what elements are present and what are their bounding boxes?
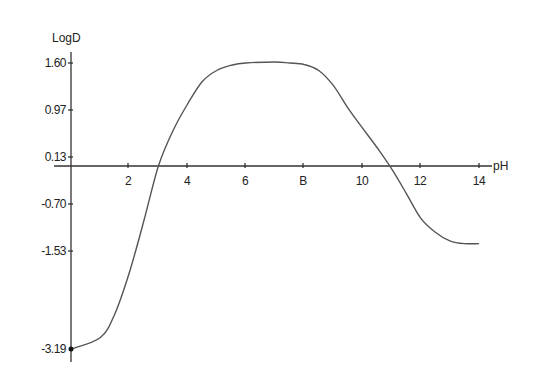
y-ticks: 1.60 0.97 0.13 -0.70 -1.53 -3.19	[41, 56, 73, 356]
x-tick-label: 2	[125, 174, 132, 188]
y-tick-label: -0.70	[41, 197, 67, 211]
y-tick-label: 0.97	[45, 103, 67, 117]
x-tick-label: 14	[473, 174, 486, 188]
y-tick-label: -3.19	[41, 342, 67, 356]
x-tick-label: 4	[184, 174, 191, 188]
y-tick-label: 1.60	[45, 56, 67, 70]
y-axis-title: LogD	[52, 31, 81, 45]
x-tick-label: 12	[414, 174, 427, 188]
x-ticks: 2 4 6 B 10 12 14	[125, 163, 486, 188]
logd-ph-chart: LogD pH 1.60 0.97 0.13 -0.70 -1.53 -3.19…	[0, 0, 540, 380]
y-tick-label: -1.53	[41, 244, 67, 258]
x-tick-label: B	[299, 174, 307, 188]
logd-curve	[71, 62, 479, 349]
y-tick-label: 0.13	[45, 150, 67, 164]
start-point-marker	[69, 347, 74, 352]
x-tick-label: 6	[242, 174, 249, 188]
x-axis-title: pH	[493, 159, 508, 173]
x-tick-label: 10	[356, 174, 369, 188]
